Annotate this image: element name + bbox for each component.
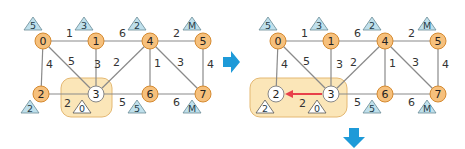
node-1: 1 [323, 33, 339, 49]
edge-weight: 2 [408, 27, 415, 40]
node-7: 7 [195, 86, 211, 102]
svg-text:5: 5 [435, 35, 442, 48]
node-2: 2 [268, 86, 284, 102]
svg-text:5: 5 [30, 20, 36, 31]
edge-weight: 5 [68, 55, 75, 68]
distance-triangle-icon: 5 [24, 17, 42, 31]
edge-weight: 2 [299, 97, 306, 110]
svg-text:4: 4 [382, 35, 389, 48]
next-step-right-arrow-icon [223, 51, 240, 73]
svg-text:0: 0 [275, 35, 282, 48]
edge-weight: 1 [389, 57, 396, 70]
node-6: 6 [142, 86, 158, 102]
edge-weight: 3 [336, 58, 343, 71]
edge-weight: 6 [354, 27, 361, 40]
edge-weight: 5 [303, 55, 310, 68]
svg-text:M: M [423, 103, 431, 114]
distance-triangle-icon: M [418, 17, 436, 31]
svg-text:3: 3 [93, 88, 100, 101]
distance-triangle-icon: 5 [259, 17, 277, 31]
edge-weight: 5 [354, 96, 361, 109]
svg-text:5: 5 [134, 103, 140, 114]
distance-triangle-icon: M [183, 100, 201, 114]
panel-before: 1 6 2 4 5 3 2 1 3 4 2 5 6 0 1 4 5 2 3 6 … [21, 17, 214, 117]
edge-weight: 5 [119, 96, 126, 109]
edge-weight: 1 [154, 57, 161, 70]
edge-weight: 1 [66, 27, 73, 40]
svg-text:1: 1 [93, 35, 100, 48]
svg-text:M: M [423, 20, 431, 31]
svg-text:1: 1 [328, 35, 335, 48]
svg-text:2: 2 [38, 88, 45, 101]
distance-triangle-icon: 2 [128, 17, 146, 31]
distance-triangle-icon: 5 [128, 100, 146, 114]
svg-text:6: 6 [147, 88, 154, 101]
svg-text:0: 0 [40, 35, 47, 48]
svg-text:0: 0 [79, 103, 85, 114]
distance-triangle-icon: 2 [363, 17, 381, 31]
node-6: 6 [377, 86, 393, 102]
svg-text:3: 3 [81, 20, 87, 31]
svg-text:M: M [188, 20, 196, 31]
panel-after: 1 6 2 4 5 3 2 1 3 4 2 5 6 0 1 4 5 2 3 6 … [250, 17, 449, 117]
distance-triangle-icon: 5 [363, 100, 381, 114]
node-0: 0 [35, 33, 51, 49]
svg-text:4: 4 [147, 35, 154, 48]
edge-weight: 4 [281, 58, 288, 71]
edge-3-4 [96, 41, 150, 94]
edge-weight: 4 [207, 58, 214, 71]
distance-triangle-icon: M [418, 100, 436, 114]
edge-weight: 3 [412, 56, 419, 69]
distance-triangle-icon: M [183, 17, 201, 31]
node-3: 3 [88, 86, 104, 102]
node-4: 4 [142, 33, 158, 49]
distance-triangle-icon: 3 [75, 17, 93, 31]
svg-text:2: 2 [262, 103, 268, 114]
edge-weight: 2 [64, 97, 71, 110]
node-3: 3 [323, 86, 339, 102]
next-step-down-arrow-icon [343, 128, 365, 148]
dijkstra-diagram: 1 6 2 4 5 3 2 1 3 4 2 5 6 0 1 4 5 2 3 6 … [0, 0, 465, 149]
edge-weight: 6 [408, 96, 415, 109]
distance-triangle-icon: 2 [21, 100, 39, 114]
edge-weight: 6 [119, 27, 126, 40]
svg-text:7: 7 [200, 88, 207, 101]
svg-text:2: 2 [27, 103, 33, 114]
edge-weight: 4 [442, 58, 449, 71]
svg-text:3: 3 [328, 88, 335, 101]
node-4: 4 [377, 33, 393, 49]
distance-triangle-icon: 3 [310, 17, 328, 31]
svg-text:6: 6 [382, 88, 389, 101]
node-1: 1 [88, 33, 104, 49]
svg-text:0: 0 [314, 103, 320, 114]
edge-weight: 3 [177, 56, 184, 69]
svg-text:2: 2 [134, 20, 140, 31]
node-5: 5 [195, 33, 211, 49]
edge-weight: 4 [46, 58, 53, 71]
edge-weight: 2 [350, 56, 357, 69]
edge-weight: 2 [113, 56, 120, 69]
svg-text:5: 5 [265, 20, 271, 31]
svg-text:7: 7 [435, 88, 442, 101]
svg-text:M: M [188, 103, 196, 114]
node-0: 0 [270, 33, 286, 49]
edge-weight: 3 [94, 58, 101, 71]
node-7: 7 [430, 86, 446, 102]
svg-text:2: 2 [273, 88, 280, 101]
node-2: 2 [33, 86, 49, 102]
svg-text:3: 3 [316, 20, 322, 31]
edge-weight: 1 [301, 27, 308, 40]
node-5: 5 [430, 33, 446, 49]
edge-weight: 6 [173, 96, 180, 109]
svg-text:5: 5 [369, 103, 375, 114]
edge-weight: 2 [173, 27, 180, 40]
svg-text:2: 2 [369, 20, 375, 31]
svg-text:5: 5 [200, 35, 207, 48]
